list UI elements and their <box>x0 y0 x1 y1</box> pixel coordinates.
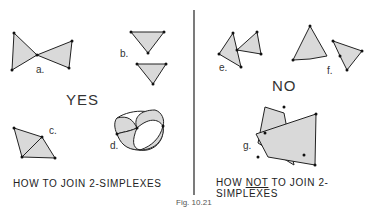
label-e: e. <box>219 62 227 73</box>
no-heading: NO <box>272 77 297 94</box>
triangle-e-right <box>237 32 261 54</box>
caption-emphasis: NOT <box>246 177 269 188</box>
label-b: b. <box>120 48 128 59</box>
triangle-f-small <box>333 41 362 70</box>
triangle-b-top <box>131 32 164 53</box>
caption-prefix: HOW <box>216 177 246 188</box>
label-d: d. <box>110 140 118 151</box>
left-caption: HOW TO JOIN 2-SIMPLEXES <box>13 178 161 189</box>
triangle-f-big <box>293 26 327 60</box>
right-caption: HOW NOT TO JOIN 2-SIMPLEXES <box>216 177 383 199</box>
triangle-b-bottom <box>137 64 166 84</box>
triangle-a-left <box>12 33 37 70</box>
yes-heading: YES <box>66 91 99 108</box>
label-c: c. <box>49 125 57 136</box>
label-f: f. <box>327 65 333 76</box>
label-g: g. <box>243 140 251 151</box>
simplex-diagram <box>0 0 383 207</box>
figure-caption: Fig. 10.21 <box>176 198 212 207</box>
label-a: a. <box>36 64 44 75</box>
